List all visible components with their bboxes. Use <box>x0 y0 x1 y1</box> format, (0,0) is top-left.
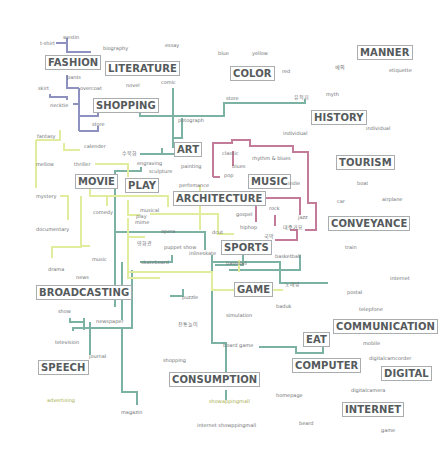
term-boat: boat <box>357 180 368 186</box>
term-blues: blues <box>232 163 245 169</box>
term-car: car <box>337 198 345 204</box>
term-indie: indie <box>288 180 300 186</box>
term-biography: biography <box>103 45 128 51</box>
term-rhythm-blues: rhythm & blues <box>252 155 291 161</box>
term-music: music <box>92 256 107 262</box>
category-eat[interactable]: EAT <box>303 332 330 347</box>
category-literature[interactable]: LITERATURE <box>105 61 180 76</box>
category-manner[interactable]: MANNER <box>357 45 413 60</box>
category-computer[interactable]: COMPUTER <box>292 358 361 373</box>
category-play[interactable]: PLAY <box>125 178 159 193</box>
term-painting: painting <box>181 163 202 169</box>
term-airplane: airplane <box>382 196 402 202</box>
term-digitalcamera: digitalcamera <box>351 387 385 393</box>
term-inlineskate: inlineskate <box>189 250 216 256</box>
term-individual-2: individual <box>366 125 390 131</box>
term-skirt: skirt <box>38 85 49 91</box>
term-baseball: baseball <box>226 260 247 266</box>
term-journal: journal <box>89 353 106 359</box>
term-magazin: magazin <box>121 409 142 415</box>
term-drama: drama <box>48 266 64 272</box>
category-broadcasting[interactable]: BROADCASTING <box>36 285 132 300</box>
category-sports[interactable]: SPORTS <box>221 240 272 255</box>
category-conveyance[interactable]: CONVEYANCE <box>328 216 410 231</box>
term-show: show <box>58 308 71 314</box>
term-etiquette: etiquette <box>389 67 412 73</box>
term-telepfone: telepfone <box>359 306 383 312</box>
term-digitalcamcorder: digitalcamcorder <box>369 355 411 361</box>
term-simulation: simulation <box>226 312 252 318</box>
term-tshirt: t-shirt <box>40 40 55 46</box>
term-sculpture: sculpture <box>149 168 172 174</box>
category-music[interactable]: MUSIC <box>248 174 291 189</box>
term-internet-showppingmall: internet showppingmall <box>197 422 256 428</box>
term-yujeokji: 유적지 <box>294 94 309 100</box>
term-thriller: thriller <box>74 161 90 167</box>
term-necktie: necktie <box>50 102 68 108</box>
category-digital[interactable]: DIGITAL <box>381 366 432 381</box>
term-performance: perfomance <box>179 182 209 188</box>
term-fantasy: fantasy <box>37 133 56 139</box>
term-overcoat: overcoat <box>80 85 102 91</box>
term-puzzle: puzzle <box>182 294 198 300</box>
term-comedy: comedy <box>93 209 113 215</box>
term-mystery: mystery <box>36 193 57 199</box>
term-rock: rock <box>269 205 280 211</box>
category-tourism[interactable]: TOURISM <box>336 155 395 170</box>
term-documentary: documentary <box>36 226 69 232</box>
term-hiphop: hiphop <box>240 224 257 230</box>
term-classic: classic <box>222 150 239 156</box>
category-history[interactable]: HISTORY <box>311 110 367 125</box>
term-gospel: gospel <box>236 211 252 217</box>
term-baduk: baduk <box>276 303 291 309</box>
term-essay: essay <box>165 42 179 48</box>
term-mellow: mellow <box>36 161 54 167</box>
term-sueop: 수묵화 <box>122 150 137 156</box>
term-board-game: board game <box>223 342 253 348</box>
term-comic: comic <box>161 79 176 85</box>
term-individual-1: individual <box>283 130 307 136</box>
term-myth: myth <box>326 91 339 97</box>
term-jeontongnori: 전통놀이 <box>178 321 198 327</box>
term-basketball: basketball <box>275 253 301 259</box>
term-engraving: engraving <box>137 160 162 166</box>
term-shopping: shopping <box>163 357 186 363</box>
term-westin: westin <box>63 34 79 40</box>
term-yellow: yellow <box>252 50 268 56</box>
term-postal: postal <box>347 289 362 295</box>
category-game[interactable]: GAME <box>234 282 273 297</box>
term-internet: internet <box>390 275 410 281</box>
category-communication[interactable]: COMMUNICATION <box>333 319 438 334</box>
category-shopping[interactable]: SHOPPING <box>93 98 159 113</box>
term-novel: novel <box>126 82 140 88</box>
term-opera: opera <box>161 228 175 234</box>
term-yeui: 예의 <box>335 64 345 70</box>
category-color[interactable]: COLOR <box>230 66 275 81</box>
category-consumption[interactable]: CONSUMPTION <box>169 372 260 387</box>
term-mime: mime <box>135 219 149 225</box>
term-jazz: jazz <box>298 214 308 220</box>
term-gukak: 국악 <box>264 233 274 239</box>
category-art[interactable]: ART <box>174 142 202 157</box>
category-speech[interactable]: SPEECH <box>38 360 89 375</box>
category-fashion[interactable]: FASHION <box>45 55 101 70</box>
term-game: game <box>381 427 395 433</box>
term-red: red <box>282 68 290 74</box>
term-news: news <box>76 274 89 280</box>
term-skateboard: skateboard <box>141 259 169 265</box>
term-daejungga: 대중가요 <box>283 224 303 230</box>
term-pop: pop <box>224 172 233 178</box>
term-yeongeuk: 영화관 <box>137 240 152 246</box>
term-newspaper: newspaper <box>96 318 123 324</box>
term-train: train <box>345 244 357 250</box>
category-internet[interactable]: INTERNET <box>342 402 404 417</box>
term-nori: 노래방 <box>285 281 300 287</box>
term-potograph: potograph <box>178 117 204 123</box>
term-store: store <box>226 95 239 101</box>
term-blue: blue <box>218 50 229 56</box>
term-beard: beard <box>299 420 313 426</box>
term-stem: store <box>92 121 105 127</box>
category-movie[interactable]: MOVIE <box>75 174 118 189</box>
category-architecture[interactable]: ARCHITECTURE <box>173 191 266 206</box>
term-dcut: dcut <box>212 229 223 235</box>
